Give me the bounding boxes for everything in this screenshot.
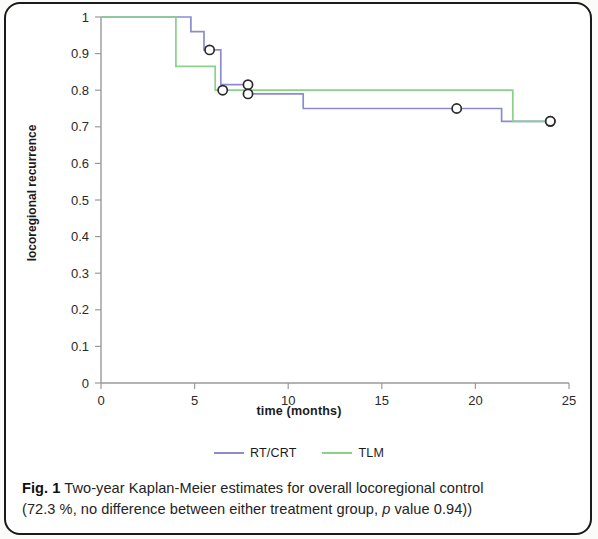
y-tick-label: 0.2 [71, 302, 89, 317]
censor-marker [243, 80, 252, 89]
censor-marker [546, 117, 555, 126]
y-tick-label: 0.7 [71, 119, 89, 134]
series-line-rt-crt [101, 17, 550, 121]
y-tick-label: 0.4 [71, 229, 89, 244]
chart-svg: 00.10.20.30.40.50.60.70.80.910510152025 [0, 0, 598, 440]
y-tick-label: 0.1 [71, 339, 89, 354]
legend-label: TLM [358, 446, 384, 460]
caption-line-2-post: value 0.94)) [390, 501, 472, 517]
y-tick-label: 0.5 [71, 193, 89, 208]
censor-marker [452, 104, 461, 113]
legend-swatch-icon [322, 452, 352, 454]
legend-item-rt-crt: RT/CRT [214, 446, 297, 460]
figure-label: Fig. 1 [22, 480, 60, 496]
x-axis-title: time (months) [0, 404, 598, 418]
legend-label: RT/CRT [250, 446, 297, 460]
censor-marker [243, 89, 252, 98]
y-tick-label: 1 [82, 10, 89, 25]
censor-marker [218, 86, 227, 95]
legend-item-tlm: TLM [322, 446, 384, 460]
y-tick-label: 0.3 [71, 266, 89, 281]
censor-marker [205, 45, 214, 54]
y-tick-label: 0 [82, 376, 89, 391]
figure-page: 00.10.20.30.40.50.60.70.80.910510152025 … [0, 0, 598, 539]
legend-swatch-icon [214, 452, 244, 454]
y-tick-label: 0.8 [71, 83, 89, 98]
kaplan-meier-chart: 00.10.20.30.40.50.60.70.80.910510152025 … [0, 0, 598, 440]
caption-line-1: Two-year Kaplan-Meier estimates for over… [64, 480, 483, 496]
series-line-tlm [101, 17, 550, 121]
y-axis-title: locoregional recurrence [25, 83, 39, 303]
y-tick-label: 0.6 [71, 156, 89, 171]
figure-caption: Fig. 1 Two-year Kaplan-Meier estimates f… [22, 478, 574, 520]
caption-line-2-pre: (72.3 %, no difference between either tr… [22, 501, 382, 517]
chart-legend: RT/CRTTLM [0, 446, 598, 460]
y-tick-label: 0.9 [71, 46, 89, 61]
